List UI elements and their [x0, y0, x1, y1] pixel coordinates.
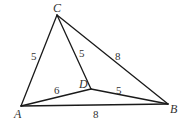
vertex-labels: ABCD: [13, 1, 178, 121]
vertex-label-a: A: [13, 107, 22, 121]
length-label-ac: 5: [31, 50, 37, 62]
segment-db: [91, 89, 168, 104]
edges: [21, 15, 168, 106]
geometry-figure: 558658 ABCD: [0, 0, 186, 129]
segment-ab: [21, 104, 168, 106]
vertex-label-b: B: [170, 102, 178, 116]
length-label-cd: 5: [79, 47, 85, 59]
length-label-db: 5: [116, 84, 122, 96]
vertex-label-d: D: [78, 77, 88, 91]
length-label-ad: 6: [54, 84, 60, 96]
vertex-label-c: C: [53, 1, 62, 15]
length-label-cb: 8: [115, 50, 121, 62]
segment-ac: [21, 15, 57, 106]
segment-cb: [57, 15, 168, 104]
length-label-ab: 8: [93, 108, 99, 120]
